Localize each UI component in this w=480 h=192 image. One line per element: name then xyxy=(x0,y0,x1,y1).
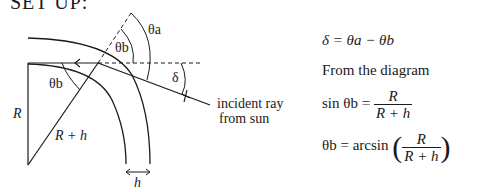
earth-surface-arc xyxy=(28,64,126,164)
arcsin-numerator: R xyxy=(415,131,428,147)
theta-b-center-label: θb xyxy=(49,76,63,92)
delta-label: δ xyxy=(172,70,179,86)
equation-sin: sin θb = R R + h xyxy=(322,88,412,121)
atmosphere-arc xyxy=(28,38,150,164)
theta-b-top-label: θb xyxy=(115,40,129,56)
incident-ray-label-1: incident ray xyxy=(217,96,283,112)
right-paren: ) xyxy=(441,130,451,163)
incident-ray-label-2: from sun xyxy=(219,111,269,127)
arcsin-lhs: θb = arcsin xyxy=(322,137,388,153)
equation-arcsin: θb = arcsin ( R R + h ) xyxy=(322,130,451,164)
h-label: h xyxy=(134,175,141,191)
r-label: R xyxy=(13,106,22,122)
sin-numerator: R xyxy=(386,88,399,104)
from-diagram-text: From the diagram xyxy=(322,62,429,79)
sin-denominator: R + h xyxy=(374,104,412,121)
left-paren: ( xyxy=(392,130,402,163)
arcsin-fraction: R R + h xyxy=(402,131,440,164)
r-plus-h-label: R + h xyxy=(55,128,87,144)
sin-fraction: R R + h xyxy=(374,88,412,121)
sin-lhs: sin θb = xyxy=(322,95,370,111)
equation-delta: δ = θa − θb xyxy=(322,32,394,49)
theta-a-label: θa xyxy=(148,22,161,38)
arcsin-denominator: R + h xyxy=(402,147,440,164)
